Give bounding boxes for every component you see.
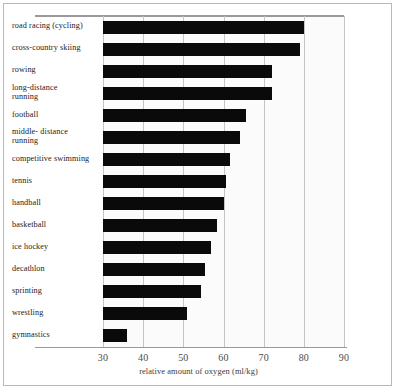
bar [103,329,127,342]
bar-label-line: cross-country skiing [12,43,100,53]
bar-row: gymnastics [4,325,393,347]
bar-row: tennis [4,170,393,192]
bar-category-label: gymnastics [12,330,100,340]
bar-row: middle- distancerunning [4,126,393,148]
bar-category-label: cross-country skiing [12,43,100,53]
x-tick-label-60: 60 [218,352,228,363]
bar-label-line: running [12,136,100,146]
bar-category-label: rowing [12,65,100,75]
bar [103,263,205,276]
bar-label-line: sprinting [12,286,100,296]
bar-label-line: ice hockey [12,242,100,252]
x-axis-line [35,347,347,348]
bar [103,131,240,144]
bar [103,307,187,320]
bar-category-label: long-distancerunning [12,83,100,102]
bar-row: decathlon [4,259,393,281]
chart-frame: road racing (cycling)cross-country skiin… [3,3,392,386]
bar-label-line: tennis [12,176,100,186]
bar [103,43,300,56]
bar-label-line: football [12,110,100,120]
bar-rows: road racing (cycling)cross-country skiin… [4,16,393,347]
x-tick-label-80: 80 [299,352,309,363]
bar-row: long-distancerunning [4,82,393,104]
x-tick-label-40: 40 [138,352,148,363]
bar-label-line: competitive swimming [12,154,100,164]
bar [103,219,217,232]
bar-row: ice hockey [4,237,393,259]
bar-row: basketball [4,215,393,237]
bar [103,87,272,100]
bar-label-line: gymnastics [12,330,100,340]
bar-category-label: handball [12,198,100,208]
bar-category-label: road racing (cycling) [12,21,100,31]
bar [103,21,304,34]
bar-row: wrestling [4,303,393,325]
x-tick-label-70: 70 [258,352,268,363]
bar-label-line: wrestling [12,308,100,318]
bar-category-label: basketball [12,220,100,230]
bar-label-line: decathlon [12,264,100,274]
bar [103,285,201,298]
bar-label-line: handball [12,198,100,208]
bar-category-label: decathlon [12,264,100,274]
bar-label-line: running [12,92,100,102]
bar-category-label: middle- distancerunning [12,127,100,146]
bar-label-line: basketball [12,220,100,230]
x-axis-title: relative amount of oxygen (ml/kg) [4,367,393,376]
bar-row: football [4,104,393,126]
bar [103,241,211,254]
bar-category-label: sprinting [12,286,100,296]
bar-label-line: long-distance [12,83,100,93]
bar-row: rowing [4,60,393,82]
bar-label-line: middle- distance [12,127,100,137]
bar [103,109,246,122]
bar [103,65,272,78]
x-tick-label-30: 30 [98,352,108,363]
bar-row: sprinting [4,281,393,303]
bar-row: competitive swimming [4,148,393,170]
bar-category-label: wrestling [12,308,100,318]
bar-label-line: rowing [12,65,100,75]
bar-category-label: ice hockey [12,242,100,252]
x-tick-label-50: 50 [178,352,188,363]
bar [103,197,224,210]
bar-row: road racing (cycling) [4,16,393,38]
bar-category-label: competitive swimming [12,154,100,164]
bar-row: handball [4,193,393,215]
x-tick-label-90: 90 [339,352,349,363]
bar [103,153,230,166]
bar-category-label: football [12,110,100,120]
bar [103,175,226,188]
bar-label-line: road racing (cycling) [12,21,100,31]
bar-row: cross-country skiing [4,38,393,60]
bar-category-label: tennis [12,176,100,186]
